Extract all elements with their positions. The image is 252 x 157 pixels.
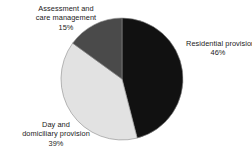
slice-label-day-line1: Day and bbox=[10, 120, 102, 129]
slice-value-day: 39% bbox=[10, 139, 102, 148]
slice-value-assessment: 15% bbox=[22, 23, 110, 32]
slice-label-day-line2: domiciliary provision bbox=[10, 129, 102, 138]
slice-label-assessment-and-care-management: Assessment and care management 15% bbox=[22, 4, 110, 32]
slice-label-assessment-line2: care management bbox=[22, 13, 110, 22]
slice-label-assessment-line1: Assessment and bbox=[22, 4, 110, 13]
slice-label-day-and-domiciliary-provision: Day and domiciliary provision 39% bbox=[10, 120, 102, 148]
slice-label-residential-line1: Residential provision bbox=[186, 39, 250, 48]
slice-value-residential: 46% bbox=[186, 48, 250, 57]
slice-label-residential-provision: Residential provision 46% bbox=[186, 39, 250, 58]
pie-chart-figure: Assessment and care management 15% Resid… bbox=[0, 0, 252, 157]
